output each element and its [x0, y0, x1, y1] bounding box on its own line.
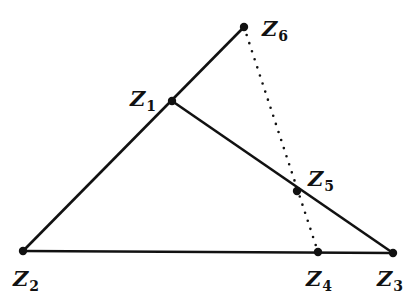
label-subscript: 1 [146, 98, 156, 114]
label-z3: Z3 [376, 266, 403, 294]
point-z5 [293, 187, 301, 195]
label-z6: Z6 [261, 16, 288, 44]
label-subscript: 2 [29, 278, 39, 294]
label-z5: Z5 [307, 166, 334, 194]
segments [23, 27, 393, 253]
label-z1: Z1 [129, 86, 156, 114]
segment-z1-z3 [172, 101, 393, 253]
segment-z6-z4-dotted [244, 27, 318, 252]
label-base: Z [376, 266, 393, 291]
diagram-canvas: Z1Z2Z3Z4Z5Z6 [0, 0, 407, 304]
segment-z2-z6 [23, 27, 244, 251]
label-z4: Z4 [305, 266, 332, 294]
label-subscript: 3 [393, 278, 403, 294]
label-base: Z [307, 166, 324, 191]
label-z2: Z2 [12, 266, 39, 294]
label-base: Z [261, 16, 278, 41]
point-z4 [314, 248, 322, 256]
label-subscript: 4 [322, 278, 332, 294]
label-base: Z [12, 266, 29, 291]
point-z2 [19, 247, 27, 255]
segment-z2-z3 [23, 251, 393, 253]
label-base: Z [305, 266, 322, 291]
label-subscript: 6 [278, 28, 288, 44]
point-z3 [389, 249, 397, 257]
label-subscript: 5 [324, 178, 334, 194]
label-base: Z [129, 86, 146, 111]
point-z1 [168, 97, 176, 105]
triangle-diagram: Z1Z2Z3Z4Z5Z6 [0, 0, 407, 304]
point-z6 [240, 23, 248, 31]
points [19, 23, 397, 257]
